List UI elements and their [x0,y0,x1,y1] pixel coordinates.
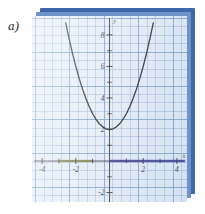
y-axis-tick-label: 4 [101,94,105,103]
y-axis-tick-label: -2 [98,188,104,197]
figure-container: a) -4-224-22468xy [0,0,205,214]
y-axis-tick-label: 8 [101,31,105,40]
y-axis-tick-label: 6 [101,62,105,71]
x-axis-tick-label: -4 [39,165,45,174]
part-label: a) [8,18,19,34]
x-axis-label: x [182,152,186,159]
x-axis-tick-label: 4 [175,165,179,174]
graph-paper: -4-224-22468xy [32,16,187,202]
x-axis-tick-label: -2 [73,165,79,174]
coordinate-plot: -4-224-22468xy [32,16,187,202]
x-axis-tick-label: 2 [141,165,145,174]
y-axis-label: y [113,17,117,24]
